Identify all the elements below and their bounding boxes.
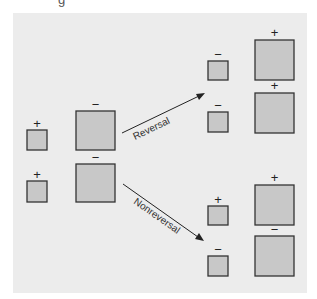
initial-small-box-2: +: [27, 167, 47, 202]
small-square: [208, 256, 228, 276]
sign-label: +: [271, 78, 279, 93]
sign-label: −: [214, 242, 222, 257]
sign-label: −: [214, 98, 222, 113]
sign-label: +: [214, 192, 222, 207]
nonreversal-arrow: Nonreversal: [123, 184, 204, 241]
reversal-large-box-1: +: [255, 25, 294, 80]
small-square: [208, 206, 228, 225]
large-square: [255, 40, 294, 80]
small-square: [27, 181, 47, 202]
reversal-arrow: Reversal: [122, 93, 205, 142]
sign-label: +: [271, 25, 279, 40]
large-square: [255, 236, 294, 276]
nonreversal-large-box-2: −: [255, 222, 294, 276]
sign-label: +: [271, 170, 279, 185]
arrow-label-nonreversal: Nonreversal: [132, 196, 182, 236]
sign-label: −: [92, 150, 100, 165]
initial-small-box-1: +: [27, 116, 47, 150]
small-square: [208, 61, 228, 80]
reversal-small-box-1: −: [208, 47, 228, 80]
arrowhead-icon: [196, 93, 205, 100]
nonreversal-small-box-1: +: [208, 192, 228, 225]
sign-label: +: [33, 116, 41, 131]
sign-label: +: [33, 167, 41, 182]
sign-label: −: [214, 47, 222, 62]
reversal-diagram: + + − − Reversal Nonreversal − − +: [0, 0, 317, 299]
initial-large-box-1: −: [76, 97, 115, 150]
large-square: [255, 185, 294, 225]
large-square: [255, 93, 294, 133]
small-square: [27, 130, 47, 150]
small-square: [208, 112, 228, 132]
initial-large-box-2: −: [76, 150, 115, 202]
arrowhead-icon: [195, 233, 204, 241]
large-square: [76, 164, 115, 202]
reversal-large-box-2: +: [255, 78, 294, 133]
sign-label: −: [92, 97, 100, 112]
reversal-small-box-2: −: [208, 98, 228, 132]
large-square: [76, 111, 115, 150]
sign-label: −: [271, 222, 279, 237]
nonreversal-small-box-2: −: [208, 242, 228, 276]
nonreversal-large-box-1: +: [255, 170, 294, 225]
